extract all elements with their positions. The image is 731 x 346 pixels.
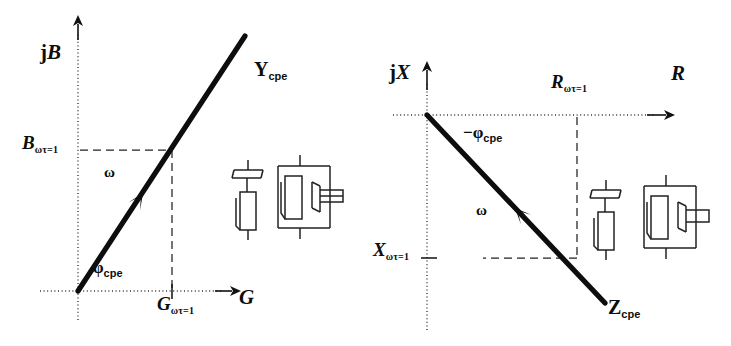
- curve-label-zcpe-sub: cpe: [621, 308, 640, 320]
- y-axis-label-var: B: [47, 40, 61, 64]
- curve-label-zcpe: Zcpe: [608, 297, 640, 317]
- angle-label-impedance: −φcpe: [463, 124, 502, 141]
- parallel-cpe-slab: [686, 210, 709, 222]
- x-axis-label-impedance: R: [671, 63, 685, 84]
- cpe-plate-right-edge: [619, 190, 621, 198]
- omega-label-admittance: ω: [104, 165, 115, 180]
- circuit-series-cpe-resistor: [590, 180, 621, 260]
- y-axis-label-j: j: [40, 40, 47, 64]
- x-tick-label-sub: ωτ=1: [171, 305, 194, 316]
- resistor-body: [240, 192, 256, 230]
- parallel-resistor-body: [651, 196, 668, 239]
- y-tick-label-impedance: Xωτ=1: [373, 240, 409, 259]
- parallel-resistor-body: [285, 176, 302, 219]
- cpe-plate-left-edge: [232, 170, 234, 178]
- parallel-cpe-edge-bottom: [678, 228, 686, 232]
- x-tick-label-main: R: [551, 71, 564, 92]
- x-axis-label-admittance: G: [239, 287, 254, 308]
- y-tick-label-sub: ωτ=1: [35, 144, 58, 155]
- angle-label-sub: cpe: [483, 132, 502, 144]
- y-tick-label-main: B: [22, 132, 35, 153]
- zcpe-ray: [427, 115, 605, 303]
- panel-impedance: jX R Rωτ=1 Xωτ=1 −φcpe ω Zcpe: [365, 0, 731, 346]
- y-axis-label-impedance: jX: [389, 62, 410, 83]
- panel-admittance: jB G Ycpe Bωτ=1 Gωτ=1 ω φcpe: [0, 0, 365, 346]
- impedance-plot-svg: [365, 0, 731, 346]
- figure-canvas: jB G Ycpe Bωτ=1 Gωτ=1 ω φcpe: [0, 0, 731, 346]
- angle-label-admittance: φcpe: [93, 259, 123, 276]
- resistor-body: [598, 212, 614, 250]
- angle-label-prefix: −: [463, 123, 473, 142]
- angle-label-sub: cpe: [104, 267, 123, 279]
- omega-label-impedance: ω: [476, 203, 487, 218]
- curve-label-zcpe-main: Z: [608, 296, 621, 318]
- x-tick-label-sub: ωτ=1: [564, 83, 587, 94]
- cpe-plate-right-edge: [261, 170, 263, 178]
- y-tick-label-main: X: [373, 239, 386, 260]
- curve-label-ycpe-sub: cpe: [268, 70, 287, 82]
- y-tick-label-admittance: Bωτ=1: [22, 133, 58, 152]
- angle-label-main: φ: [473, 123, 484, 142]
- circuit-parallel-resistor-cpe: [278, 155, 343, 239]
- x-tick-label-main: G: [157, 293, 171, 314]
- x-tick-label-admittance: Gωτ=1: [157, 294, 194, 313]
- circuit-parallel-resistor-cpe: [644, 175, 709, 259]
- curve-label-ycpe-main: Y: [254, 58, 268, 80]
- parallel-cpe-edge-bottom: [312, 208, 320, 212]
- circuit-series-cpe-resistor: [232, 160, 263, 240]
- x-tick-label-impedance: Rωτ=1: [551, 72, 587, 91]
- cpe-plate-left-edge: [590, 190, 592, 198]
- y-axis-label-var: X: [396, 60, 410, 84]
- y-axis-label-admittance: jB: [40, 42, 61, 63]
- parallel-cpe-edge-top: [312, 182, 320, 186]
- curve-label-ycpe: Ycpe: [254, 59, 287, 79]
- y-tick-label-sub: ωτ=1: [386, 251, 409, 262]
- y-axis-label-j: j: [389, 60, 396, 84]
- parallel-cpe-edge-top: [678, 202, 686, 206]
- angle-label-main: φ: [93, 258, 104, 277]
